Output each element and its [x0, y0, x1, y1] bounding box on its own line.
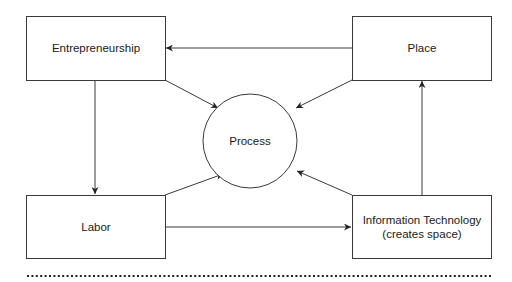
node-label: Process: [229, 135, 271, 147]
node-label-line-2: (creates space): [382, 228, 461, 240]
node-labor: Labor: [27, 196, 166, 259]
edge-infotech-to-process: [297, 171, 352, 195]
node-infotech: Information Technology (creates space): [353, 196, 492, 259]
edge-place-to-process: [296, 80, 352, 108]
edge-entrepreneurship-to-process: [165, 80, 218, 108]
node-process: Process: [203, 94, 297, 188]
node-entrepreneurship: Entrepreneurship: [27, 17, 166, 81]
edge-labor-to-process: [165, 174, 223, 195]
node-place: Place: [353, 17, 492, 81]
node-label: Entrepreneurship: [52, 42, 140, 54]
diagram-canvas: Entrepreneurship Place Process Labor Inf…: [0, 0, 512, 282]
node-label: Place: [408, 42, 437, 54]
node-label: Labor: [81, 221, 111, 233]
node-label-line-1: Information Technology: [363, 214, 482, 226]
